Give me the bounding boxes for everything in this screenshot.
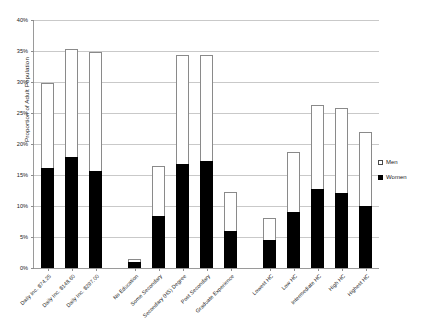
bar-segment-women xyxy=(335,193,348,268)
y-tick-mark xyxy=(31,175,34,176)
legend-swatch-women-icon xyxy=(378,175,383,180)
bar-segment-women xyxy=(359,206,372,268)
y-tick-label: 20% xyxy=(4,141,28,147)
y-tick-mark xyxy=(31,113,34,114)
bar-segment-women xyxy=(176,164,189,268)
bar-column xyxy=(152,166,165,268)
y-tick-label: 35% xyxy=(4,48,28,54)
x-tick-label: Intermediate HC xyxy=(275,273,322,320)
x-tick-mark xyxy=(48,268,49,271)
bar-column xyxy=(89,52,102,268)
legend-item-men: Men xyxy=(378,158,436,166)
y-tick-mark xyxy=(31,51,34,52)
bar-column xyxy=(41,83,54,268)
bar-chart: Proportion of Adult Population 0%5%10%15… xyxy=(0,0,439,331)
x-tick-label: Post Secondary xyxy=(164,273,211,320)
legend-swatch-men-icon xyxy=(378,160,383,165)
plot-area: 0%5%10%15%20%25%30%35%40%Daily Inc. $74.… xyxy=(33,20,379,269)
x-tick-mark xyxy=(231,268,232,271)
bar-column xyxy=(311,105,324,268)
y-tick-mark xyxy=(31,237,34,238)
x-tick-mark xyxy=(366,268,367,271)
x-tick-label: High HC xyxy=(299,273,346,320)
bar-column xyxy=(200,55,213,268)
bar-column xyxy=(128,259,141,268)
x-tick-mark xyxy=(270,268,271,271)
x-tick-label: Daily Inc. $148.60 xyxy=(29,273,76,320)
bar-segment-women xyxy=(311,189,324,268)
bar-segment-women xyxy=(224,231,237,268)
bar-column xyxy=(359,132,372,268)
y-tick-label: 0% xyxy=(4,265,28,271)
bar-column xyxy=(263,218,276,268)
y-tick-label: 30% xyxy=(4,79,28,85)
x-tick-label: Daily Inc. $297.00 xyxy=(53,273,100,320)
x-tick-mark xyxy=(135,268,136,271)
x-tick-mark xyxy=(159,268,160,271)
x-tick-mark xyxy=(342,268,343,271)
x-tick-label: Daily Inc. $74.25 xyxy=(5,273,52,320)
x-tick-mark xyxy=(183,268,184,271)
y-tick-mark xyxy=(31,206,34,207)
bar-column xyxy=(335,108,348,268)
bar-segment-women xyxy=(263,240,276,268)
bar-segment-women xyxy=(152,216,165,268)
y-tick-label: 40% xyxy=(4,17,28,23)
y-tick-mark xyxy=(31,20,34,21)
bar-segment-women xyxy=(41,168,54,268)
bar-segment-women xyxy=(65,157,78,268)
y-tick-mark xyxy=(31,268,34,269)
legend-label-women: Women xyxy=(386,174,407,181)
x-tick-mark xyxy=(96,268,97,271)
y-tick-mark xyxy=(31,82,34,83)
x-tick-label: Graduate Experience xyxy=(188,273,235,320)
gridline xyxy=(34,20,379,21)
bar-segment-women xyxy=(200,161,213,268)
bar-segment-women xyxy=(287,212,300,268)
bar-column xyxy=(65,49,78,268)
bar-column xyxy=(287,152,300,268)
gridline xyxy=(34,51,379,52)
x-tick-label: Low HC xyxy=(251,273,298,320)
x-tick-label: Highest HC xyxy=(323,273,370,320)
x-tick-mark xyxy=(318,268,319,271)
legend-label-men: Men xyxy=(386,159,398,166)
bar-column xyxy=(224,192,237,268)
y-tick-label: 15% xyxy=(4,172,28,178)
x-tick-mark xyxy=(72,268,73,271)
x-tick-label: Some Secondary xyxy=(116,273,163,320)
x-tick-mark xyxy=(207,268,208,271)
x-tick-label: No Education xyxy=(92,273,139,320)
x-tick-label: Secondary (HS) Degree xyxy=(140,273,187,320)
bar-segment-women xyxy=(89,171,102,268)
y-axis-title: Proportion of Adult Population xyxy=(23,20,30,180)
x-tick-mark xyxy=(294,268,295,271)
bar-column xyxy=(176,55,189,268)
legend-item-women: Women xyxy=(378,173,436,181)
y-tick-label: 25% xyxy=(4,110,28,116)
y-tick-label: 10% xyxy=(4,203,28,209)
chart-legend: Men Women xyxy=(378,158,436,188)
y-tick-mark xyxy=(31,144,34,145)
x-tick-label: Lowest HC xyxy=(227,273,274,320)
y-tick-label: 5% xyxy=(4,234,28,240)
